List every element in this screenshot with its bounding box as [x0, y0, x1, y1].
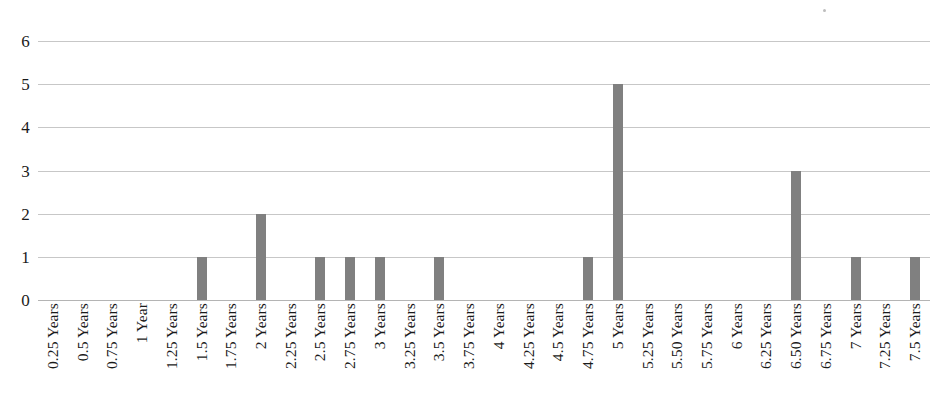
bar-slot: [484, 41, 514, 300]
bar-slot: [365, 41, 395, 300]
x-axis-tick-slot: 0.75 Years: [97, 303, 127, 415]
x-axis-tick-slot: 4.25 Years: [514, 303, 544, 415]
x-axis-tick-label: 4.75 Years: [580, 303, 596, 369]
bar-slot: [335, 41, 365, 300]
x-axis-tick-slot: 6.75 Years: [811, 303, 841, 415]
x-axis-tick-label: 7.5 Years: [907, 303, 923, 361]
x-axis-tick-label: 6.75 Years: [818, 303, 834, 369]
bar-slot: [395, 41, 425, 300]
bar[interactable]: [851, 257, 861, 300]
x-axis-tick-labels: 0.25 Years0.5 Years0.75 Years1 Year1.25 …: [38, 303, 930, 415]
bar[interactable]: [910, 257, 920, 300]
bar[interactable]: [315, 257, 325, 300]
x-axis-tick-slot: 7.5 Years: [900, 303, 930, 415]
x-axis-tick-slot: 1.5 Years: [187, 303, 217, 415]
x-axis-tick-label: 3 Years: [372, 303, 388, 349]
x-axis-tick-label: 5 Years: [610, 303, 626, 349]
y-axis-tick-label: 1: [21, 248, 30, 265]
bar-slot: [603, 41, 633, 300]
x-axis-tick-slot: 2 Years: [246, 303, 276, 415]
x-axis-tick-label: 3.25 Years: [402, 303, 418, 369]
bar-slot: [454, 41, 484, 300]
x-axis-tick-label: 3.75 Years: [461, 303, 477, 369]
bar[interactable]: [583, 257, 593, 300]
x-axis-tick-slot: 6 Years: [722, 303, 752, 415]
x-axis-tick-label: 6 Years: [729, 303, 745, 349]
bar-slot: [662, 41, 692, 300]
x-axis-tick-slot: 5 Years: [603, 303, 633, 415]
x-axis-tick-slot: 4.75 Years: [573, 303, 603, 415]
x-axis-tick-slot: 1.25 Years: [157, 303, 187, 415]
x-axis-tick-slot: 5.50 Years: [662, 303, 692, 415]
x-axis-tick-slot: 1.75 Years: [216, 303, 246, 415]
y-axis-tick-label: 0: [21, 292, 30, 309]
axis-baseline: [38, 300, 930, 301]
bar[interactable]: [434, 257, 444, 300]
x-axis-tick-slot: 1 Year: [127, 303, 157, 415]
x-axis-tick-label: 2.75 Years: [342, 303, 358, 369]
x-axis-tick-label: 2.25 Years: [283, 303, 299, 369]
x-axis-tick-label: 4.25 Years: [521, 303, 537, 369]
bar[interactable]: [613, 84, 623, 300]
x-axis-tick-slot: 6.50 Years: [781, 303, 811, 415]
y-axis-tick-label: 5: [21, 76, 30, 93]
y-axis-tick-label: 6: [21, 33, 30, 50]
bar-slot: [276, 41, 306, 300]
x-axis-tick-slot: 2.5 Years: [306, 303, 336, 415]
x-axis-tick-label: 5.25 Years: [640, 303, 656, 369]
bar-slot: [216, 41, 246, 300]
bar[interactable]: [197, 257, 207, 300]
x-axis-tick-slot: 5.25 Years: [633, 303, 663, 415]
bar[interactable]: [375, 257, 385, 300]
bar[interactable]: [256, 214, 266, 300]
x-axis-tick-label: 1.25 Years: [164, 303, 180, 369]
bar-slot: [38, 41, 68, 300]
bar-slot: [97, 41, 127, 300]
bar-slot: [722, 41, 752, 300]
bar-slot: [157, 41, 187, 300]
x-axis-tick-slot: 4.5 Years: [543, 303, 573, 415]
bar-slot: [633, 41, 663, 300]
x-axis-tick-label: 0.25 Years: [45, 303, 61, 369]
x-axis-tick-slot: 3.25 Years: [395, 303, 425, 415]
x-axis-tick-slot: 3 Years: [365, 303, 395, 415]
bar-slot: [871, 41, 901, 300]
y-axis-tick-label: 2: [21, 205, 30, 222]
bar-slot: [781, 41, 811, 300]
x-axis-tick-label: 0.75 Years: [105, 303, 121, 369]
bar-slot: [573, 41, 603, 300]
x-axis-tick-slot: 2.75 Years: [335, 303, 365, 415]
x-axis-tick-slot: 4 Years: [484, 303, 514, 415]
y-axis-tick-label: 4: [21, 119, 30, 136]
x-axis-tick-slot: 3.75 Years: [454, 303, 484, 415]
x-axis-tick-label: 4 Years: [491, 303, 507, 349]
x-axis-tick-slot: 7.25 Years: [871, 303, 901, 415]
x-axis-tick-slot: 6.25 Years: [752, 303, 782, 415]
x-axis-tick-label: 2 Years: [253, 303, 269, 349]
bar-slot: [68, 41, 98, 300]
bar-slot: [514, 41, 544, 300]
x-axis-tick-label: 3.5 Years: [432, 303, 448, 361]
x-axis-tick-label: 7 Years: [848, 303, 864, 349]
x-axis-tick-slot: 3.5 Years: [425, 303, 455, 415]
x-axis-tick-slot: 2.25 Years: [276, 303, 306, 415]
bar-slot: [811, 41, 841, 300]
x-axis-tick-label: 6.50 Years: [788, 303, 804, 369]
bar-slot: [425, 41, 455, 300]
x-axis-tick-slot: 7 Years: [841, 303, 871, 415]
x-axis-tick-label: 4.5 Years: [551, 303, 567, 361]
bar-slot: [752, 41, 782, 300]
bar[interactable]: [345, 257, 355, 300]
y-axis-tick-labels: 0123456: [0, 41, 30, 300]
x-axis-tick-slot: 0.25 Years: [38, 303, 68, 415]
bar-slot: [306, 41, 336, 300]
plot-area: [38, 41, 930, 300]
x-axis-tick-label: 1.75 Years: [224, 303, 240, 369]
x-axis-tick-slot: 5.75 Years: [692, 303, 722, 415]
bar-slot: [127, 41, 157, 300]
y-axis-tick-label: 3: [21, 162, 30, 179]
x-axis-tick-label: 7.25 Years: [878, 303, 894, 369]
x-axis-tick-label: 6.25 Years: [759, 303, 775, 369]
bar[interactable]: [791, 171, 801, 301]
bar-slot: [841, 41, 871, 300]
